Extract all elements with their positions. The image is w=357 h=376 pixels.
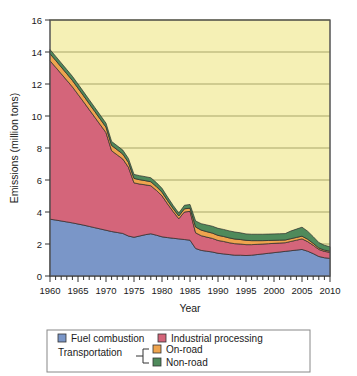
y-tick-label: 0	[37, 271, 42, 282]
plot-area	[50, 20, 330, 276]
x-tick-label: 2005	[291, 285, 312, 296]
legend-swatch-non-road	[153, 358, 161, 366]
x-axis-title: Year	[179, 302, 201, 314]
x-tick-label: 1990	[207, 285, 228, 296]
y-tick-label: 14	[31, 47, 42, 58]
x-tick-label: 2010	[319, 285, 340, 296]
y-tick-label: 16	[31, 15, 42, 26]
legend-swatch-industrial-processing	[158, 334, 166, 342]
x-tick-label: 1980	[151, 285, 172, 296]
legend-label-on-road: On-road	[166, 344, 203, 355]
y-tick-label: 4	[37, 207, 42, 218]
legend-swatch-on-road	[153, 345, 161, 353]
legend-swatch-fuel-combustion	[58, 334, 66, 342]
y-tick-label: 6	[37, 175, 42, 186]
x-tick-label: 1975	[123, 285, 144, 296]
y-tick-label: 10	[31, 111, 42, 122]
x-tick-label: 1960	[39, 285, 60, 296]
y-axis-title: Emissions (million tons)	[8, 93, 20, 203]
legend-label-transportation-group: Transportation	[58, 347, 122, 358]
emissions-stacked-area-chart: 0246810121416 19601965197019751980198519…	[0, 0, 357, 376]
x-tick-label: 1995	[235, 285, 256, 296]
x-tick-label: 1985	[179, 285, 200, 296]
y-tick-label: 8	[37, 143, 42, 154]
x-tick-label: 1970	[95, 285, 116, 296]
x-tick-label: 1965	[67, 285, 88, 296]
x-tick-label: 2000	[263, 285, 284, 296]
legend-label-fuel-combustion: Fuel combustion	[71, 333, 144, 344]
y-tick-label: 2	[37, 239, 42, 250]
legend-label-non-road: Non-road	[166, 357, 208, 368]
legend: Fuel combustion Industrial processing Tr…	[47, 330, 310, 372]
y-tick-label: 12	[31, 79, 42, 90]
legend-label-industrial-processing: Industrial processing	[171, 333, 263, 344]
